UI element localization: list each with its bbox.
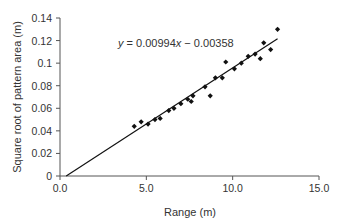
data-point-marker <box>258 56 263 61</box>
y-tick-label: 0.1 <box>37 57 52 69</box>
y-tick-label: 0.12 <box>32 35 53 47</box>
y-axis-label: Square root of pattern area (m) <box>11 21 23 173</box>
y-tick-label: 0.04 <box>32 125 53 137</box>
y-tick-label: 0.02 <box>32 147 53 159</box>
data-point-marker <box>139 119 144 124</box>
x-tick-label: 0.0 <box>53 182 68 194</box>
data-point-marker <box>223 59 228 64</box>
x-tick-label: 10.0 <box>222 182 243 194</box>
data-point-marker <box>268 47 273 52</box>
y-axis-ticks: 00.020.040.060.080.10.120.14 <box>32 12 60 182</box>
data-point-marker <box>246 54 251 59</box>
equation-annotation: y = 0.00994x − 0.00358 <box>117 37 234 49</box>
x-axis-label: Range (m) <box>164 206 216 218</box>
equation-intercept: − 0.00358 <box>181 37 233 49</box>
regression-line <box>66 39 277 176</box>
data-point-marker <box>208 93 213 98</box>
data-point-marker <box>132 124 137 129</box>
fit-line <box>66 39 277 176</box>
data-point-marker <box>275 27 280 32</box>
y-tick-label: 0.06 <box>32 102 53 114</box>
y-tick-label: 0 <box>46 170 52 182</box>
x-tick-label: 5.0 <box>139 182 154 194</box>
y-tick-label: 0.08 <box>32 80 53 92</box>
x-tick-label: 15.0 <box>309 182 330 194</box>
data-point-marker <box>232 66 237 71</box>
x-axis-ticks: 0.05.010.015.0 <box>53 176 330 194</box>
data-point-marker <box>261 40 266 45</box>
data-point-marker <box>171 106 176 111</box>
chart-canvas: 00.020.040.060.080.10.120.14 0.05.010.01… <box>0 0 345 220</box>
scatter-chart: 00.020.040.060.080.10.120.14 0.05.010.01… <box>0 0 345 220</box>
y-tick-label: 0.14 <box>32 12 53 24</box>
data-point-marker <box>190 93 195 98</box>
equation-slope: = 0.00994 <box>124 37 176 49</box>
data-point-marker <box>178 101 183 106</box>
